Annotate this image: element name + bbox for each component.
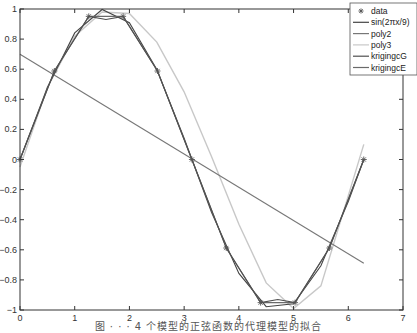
data-point-marker [120,13,126,19]
y-tick-label: −0.8 [0,275,17,285]
y-tick-label: 0.4 [4,94,17,104]
data-point-marker [361,157,367,163]
legend-label: krigingcG [371,51,407,61]
legend-label: krigingcE [371,63,406,73]
data-point-marker [51,68,57,74]
legend-label: sin(2πx/9) [371,17,410,27]
y-tick-label: 0.6 [4,64,17,74]
figure-caption: 图 · · · 4 个模型的正弦函数的代理模型的拟合 [0,318,417,333]
axes: 01234567−1−0.8−0.6−0.4−0.200.20.40.60.81 [0,4,406,323]
legend-label: poly2 [371,29,392,39]
legend-label: poly3 [371,40,392,50]
axes-box [20,9,403,310]
y-tick-label: −0.4 [0,215,17,225]
chart-figure: 01234567−1−0.8−0.6−0.4−0.200.20.40.60.81… [0,0,417,333]
data-point-marker [189,157,195,163]
y-tick-label: 0.8 [4,34,17,44]
data-point-marker [86,13,92,19]
data-point-marker [154,68,160,74]
legend-label: data [371,6,388,16]
data-point-marker [292,300,298,306]
plot-area [17,10,367,309]
y-tick-label: 1 [12,4,17,14]
y-tick-label: 0 [12,155,17,165]
y-tick-label: 0.2 [4,124,17,134]
legend: datasin(2πx/9)poly2poly3krigingcGkriging… [350,3,417,75]
y-tick-label: −0.2 [0,185,17,195]
y-tick-label: −0.6 [0,245,17,255]
data-point-marker [258,300,264,306]
y-tick-label: −1 [7,305,17,315]
